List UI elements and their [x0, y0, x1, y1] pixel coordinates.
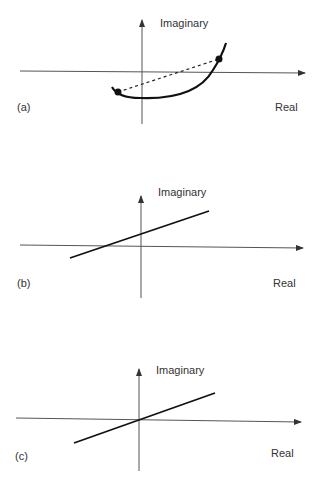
endpoint-dot-left [115, 89, 122, 96]
real-axis-label: Real [275, 102, 298, 113]
complex-plane-c [0, 325, 320, 485]
panel-tag: (a) [17, 102, 30, 113]
locus-curve [112, 43, 226, 98]
real-axis-label: Real [271, 448, 294, 459]
locus-line [74, 393, 215, 443]
imaginary-axis-label: Imaginary [160, 18, 208, 29]
panel-tag: (b) [17, 278, 30, 289]
imaginary-axis-label: Imaginary [156, 365, 204, 376]
panel-c: Imaginary Real (c) [0, 325, 320, 485]
real-axis-label: Real [273, 278, 296, 289]
endpoint-dot-right [216, 56, 223, 63]
real-axis [20, 71, 305, 73]
panel-b: Imaginary Real (b) [0, 165, 320, 325]
real-axis [16, 418, 301, 422]
panel-a: Imaginary Real (a) [0, 0, 320, 165]
locus-line [70, 211, 209, 258]
panel-tag: (c) [15, 451, 28, 462]
real-axis [20, 245, 303, 248]
dashed-chord [118, 59, 219, 92]
imaginary-axis-label: Imaginary [158, 187, 206, 198]
